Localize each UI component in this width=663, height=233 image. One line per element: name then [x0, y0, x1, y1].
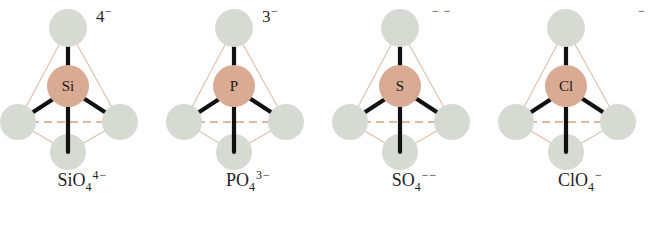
- charge-label-top: − −: [432, 4, 452, 27]
- oxygen-atom-right: [434, 104, 470, 140]
- oxygen-atom-top: [49, 9, 87, 47]
- structure-unit-phosphate: P 3− PO43−: [166, 0, 331, 233]
- formula-caption: SiO44−: [0, 168, 165, 195]
- formula-main: ClO: [558, 170, 588, 190]
- tetrahedron-diagram-perchlorate: Cl: [498, 0, 663, 233]
- central-atom-label: S: [396, 78, 404, 94]
- charge-value: 4: [96, 7, 105, 26]
- formula-subscript: 4: [249, 180, 255, 194]
- charge-sign: −: [105, 4, 113, 18]
- formula-subscript: 4: [588, 180, 594, 194]
- charge-label-top: 3−: [262, 4, 279, 27]
- formula-subscript: 4: [86, 180, 92, 194]
- oxygen-atom-left: [498, 104, 534, 140]
- central-atom-label: P: [230, 78, 238, 94]
- formula-superscript: −−: [422, 168, 438, 182]
- charge-value: 3: [262, 7, 271, 26]
- tetrahedron-diagram-phosphate: P: [166, 0, 331, 233]
- oxygen-atom-top: [381, 9, 419, 47]
- charge-label-top: −: [638, 4, 646, 27]
- oxygen-atom-right: [102, 104, 138, 140]
- charge-sign: −: [271, 4, 279, 18]
- oxygen-atom-right: [268, 104, 304, 140]
- formula-main: SiO: [58, 170, 86, 190]
- formula-caption: PO43−: [166, 168, 331, 195]
- figure-canvas: Si 4− SiO44−: [0, 0, 663, 233]
- central-atom-label: Si: [62, 78, 75, 94]
- oxygen-atom-left: [0, 104, 36, 140]
- formula-caption: SO4−−: [332, 168, 497, 195]
- oxygen-atom-top: [215, 9, 253, 47]
- oxygen-atom-top: [547, 9, 585, 47]
- formula-main: SO: [392, 170, 415, 190]
- structure-unit-silicate: Si 4− SiO44−: [0, 0, 165, 233]
- structure-unit-sulfate: S − − SO4−−: [332, 0, 497, 233]
- formula-superscript: 3−: [256, 168, 271, 182]
- tetrahedron-diagram-silicate: Si: [0, 0, 165, 233]
- charge-label-top: 4−: [96, 4, 113, 27]
- oxygen-atom-left: [166, 104, 202, 140]
- oxygen-atom-left: [332, 104, 368, 140]
- formula-main: PO: [226, 170, 249, 190]
- formula-superscript: −: [595, 168, 603, 182]
- formula-caption: ClO4−: [498, 168, 663, 195]
- tetrahedron-diagram-sulfate: S: [332, 0, 497, 233]
- central-atom-label: Cl: [559, 78, 573, 94]
- structure-unit-perchlorate: Cl − ClO4−: [498, 0, 663, 233]
- charge-sign: −: [638, 4, 646, 18]
- formula-superscript: 4−: [93, 168, 108, 182]
- oxygen-atom-right: [600, 104, 636, 140]
- formula-subscript: 4: [415, 180, 421, 194]
- charge-sign: − −: [432, 4, 452, 18]
